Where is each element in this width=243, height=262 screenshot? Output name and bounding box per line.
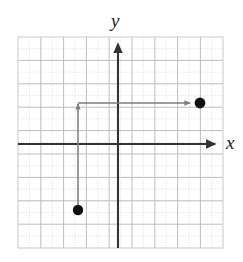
point-a [195,98,206,109]
coordinate-plane-figure: y x [0,0,243,262]
y-axis-label: y [111,11,119,30]
point-b [73,205,83,215]
x-axis-label: x [226,133,234,152]
grid-minor-lines [18,37,223,248]
coordinate-plane-svg [0,0,243,262]
